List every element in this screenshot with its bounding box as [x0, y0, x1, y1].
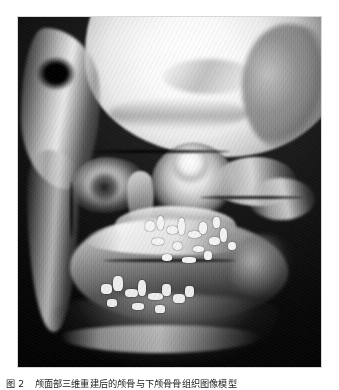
figure-caption-label: 图 2 [6, 378, 24, 389]
dental-fragment-cluster [139, 210, 242, 273]
right-zygomatic-arch [248, 178, 315, 220]
left-orbital-cavity-void [88, 171, 121, 203]
ramus-fissure-left [70, 182, 73, 238]
cranium-right-shadow-region [242, 24, 321, 150]
midface-fissure-upper [91, 150, 230, 153]
cranial-suture-line [163, 59, 254, 94]
external-auditory-canal-void [36, 56, 75, 91]
figure-page: 图 2 颅面部三维重建后的颅骨与下颅骨骨组织图像模型 [0, 0, 339, 390]
figure-caption-text: 颅面部三维重建后的颅骨与下颅骨骨组织图像模型 [35, 378, 237, 389]
frontal-bone-ridge [109, 98, 248, 130]
ct-skull-figure-image [18, 17, 321, 367]
figure-caption: 图 2 颅面部三维重建后的颅骨与下颅骨骨组织图像模型 [6, 378, 333, 389]
midface-fissure-lateral [200, 196, 303, 199]
occlusal-fragment-cluster [97, 269, 200, 318]
